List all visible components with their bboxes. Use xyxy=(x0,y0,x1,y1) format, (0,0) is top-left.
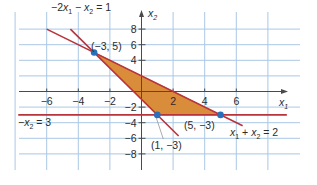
x-tick-label: 4 xyxy=(202,95,208,107)
vertex-point xyxy=(217,112,224,119)
x-tick-label: −2 xyxy=(104,95,116,107)
y-tick-label: −2 xyxy=(125,101,137,113)
x-axis-arrow-icon xyxy=(281,89,288,94)
x-axis-label: x1 xyxy=(278,96,288,110)
x-tick-label: −6 xyxy=(41,95,53,107)
line-label-neg-x2-eq-3: −x2 = 3 xyxy=(18,116,51,130)
feasible-region-diagram: −6−4−2246864−2−4−6−8 x2 x1 −2x1 − x2 = 1… xyxy=(0,0,317,185)
vertex-label-leader xyxy=(156,118,163,139)
vertex-label-5-neg3: (5, −3) xyxy=(184,119,215,131)
y-tick-label: 4 xyxy=(131,54,137,66)
x-tick-label: 2 xyxy=(170,95,176,107)
vertex-label-neg3-5: (−3, 5) xyxy=(91,40,122,52)
boundary-line xyxy=(47,29,243,126)
x-tick-label: −4 xyxy=(72,95,84,107)
vertex-point xyxy=(154,112,161,119)
vertex-label-1-neg3: (1, −3) xyxy=(151,139,182,151)
line-label-neg2x1-minus-x2-eq-1: −2x1 − x2 = 1 xyxy=(51,1,111,15)
y-tick-label: −6 xyxy=(125,132,137,144)
y-tick-label: 8 xyxy=(131,23,137,35)
x-tick-label: 6 xyxy=(233,95,239,107)
y-axis-label: x2 xyxy=(147,7,157,21)
y-tick-label: 6 xyxy=(131,39,137,51)
y-axis-arrow-icon xyxy=(139,10,144,17)
y-tick-label: −8 xyxy=(125,148,137,160)
y-tick-label: −4 xyxy=(125,117,137,129)
